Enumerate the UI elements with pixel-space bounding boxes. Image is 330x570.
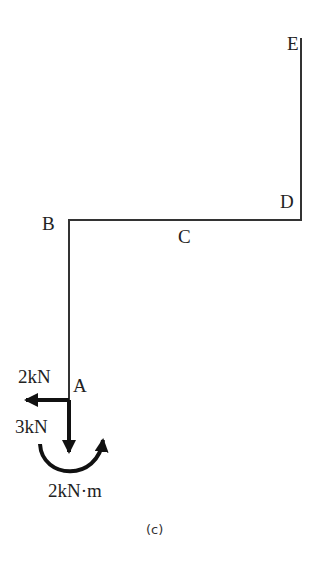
figure-caption: (c)	[146, 522, 163, 537]
load-label-3kN: 3kN	[15, 416, 48, 437]
frame-member-ABDE	[69, 38, 301, 400]
load-label-moment: 2kN·m	[48, 480, 102, 501]
node-label-c: C	[178, 226, 191, 247]
node-label-a: A	[73, 375, 87, 396]
moment-arrow-2kNm	[40, 440, 103, 471]
node-label-e: E	[287, 33, 299, 54]
load-label-2kN: 2kN	[18, 366, 51, 387]
node-label-d: D	[280, 191, 294, 212]
frame-diagram: E D B C A 2kN 3kN 2kN·m (c)	[0, 0, 330, 570]
node-label-b: B	[42, 213, 55, 234]
